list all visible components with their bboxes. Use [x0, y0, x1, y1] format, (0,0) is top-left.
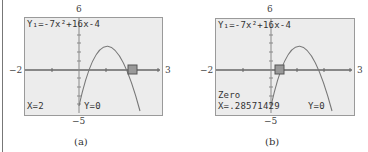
panel-a: 6 Y₁=-7x²+16x-4 −2 3 X=2 Y=0 −5 (a) [0, 0, 184, 152]
cursor-marker [128, 65, 137, 74]
equation-label: Y₁=-7x²+16x-4 [27, 19, 100, 29]
y-readout: Y=0 [84, 101, 101, 111]
xmin-label: −2 [200, 65, 213, 75]
ymin-label: −5 [72, 116, 85, 126]
y-readout: Y=0 [308, 101, 325, 111]
xmax-label: 3 [357, 65, 363, 75]
caption-b: (b) [265, 136, 279, 147]
cursor-marker [275, 65, 284, 74]
equation-label: Y₁=-7x²+16x-4 [218, 20, 291, 30]
x-readout: X=2 [27, 101, 44, 111]
xmax-label: 3 [165, 65, 171, 75]
xmin-label: −2 [9, 65, 22, 75]
mode-label: Zero [218, 90, 240, 100]
ymin-label: −5 [264, 116, 277, 126]
caption-a: (a) [74, 136, 88, 147]
x-readout: X=.28571429 [218, 101, 280, 111]
panel-b: 6 Y₁=-7x²+16x-4 −2 3 Zero X=.28571429 Y=… [184, 0, 368, 152]
